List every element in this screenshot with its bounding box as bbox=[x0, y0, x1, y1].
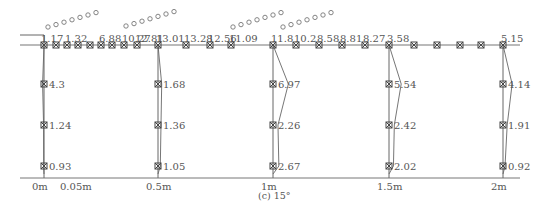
value-label: 11.8 bbox=[271, 33, 293, 44]
bubble-icon bbox=[164, 12, 168, 16]
value-label: 1.36 bbox=[163, 120, 185, 131]
bubble-icon bbox=[86, 13, 90, 17]
x-tick-label: 0.5m bbox=[146, 181, 172, 192]
value-label: 10.2 bbox=[294, 33, 316, 44]
bubble-icon bbox=[54, 22, 58, 26]
value-label: 2.67 bbox=[278, 161, 300, 172]
profile-1.5m: 5.542.422.02 bbox=[386, 45, 416, 178]
x-tick-label: 0m bbox=[32, 181, 48, 192]
bubble-icon bbox=[70, 18, 74, 22]
value-label: 11.09 bbox=[229, 33, 258, 44]
bubble-icon bbox=[124, 24, 128, 28]
bubble-icon bbox=[297, 20, 301, 24]
value-label: 1.91 bbox=[508, 120, 530, 131]
bubble-icon bbox=[231, 25, 235, 29]
value-label: 8.27 bbox=[363, 33, 385, 44]
velocity-profile-diagram: 4.31.240.931.681.361.056.972.262.675.542… bbox=[0, 0, 553, 210]
value-label: 1.05 bbox=[163, 161, 185, 172]
figure-caption: (c) 15° bbox=[258, 190, 291, 201]
bubble-icon bbox=[148, 17, 152, 21]
value-label: 4.3 bbox=[49, 79, 65, 90]
bubble-icon bbox=[156, 14, 160, 18]
value-label: 2.02 bbox=[394, 161, 416, 172]
bubble-icon bbox=[172, 9, 176, 13]
profile-2m: 4.141.910.92 bbox=[500, 45, 530, 178]
value-label: 5.54 bbox=[394, 79, 416, 90]
profile-1m: 6.972.262.67 bbox=[270, 45, 300, 178]
bubble-icon bbox=[62, 20, 66, 24]
bubble-icon bbox=[329, 10, 333, 14]
bubble-icon bbox=[247, 20, 251, 24]
value-label: 3.58 bbox=[387, 33, 409, 44]
bubble-icon bbox=[239, 22, 243, 26]
value-label: 4.14 bbox=[508, 79, 530, 90]
bubble-icon bbox=[94, 10, 98, 14]
value-label: 1.17 bbox=[41, 33, 63, 44]
bubble-icon bbox=[132, 21, 136, 25]
value-label: 0.92 bbox=[508, 161, 530, 172]
value-label: 8.58 bbox=[317, 33, 339, 44]
value-label: 8.81 bbox=[340, 33, 362, 44]
bubble-icon bbox=[313, 15, 317, 19]
bubble-icon bbox=[46, 25, 50, 29]
bubble-icon bbox=[289, 22, 293, 26]
x-tick-label: 0.05m bbox=[60, 181, 92, 192]
value-label: 2.42 bbox=[394, 120, 416, 131]
x-tick-label: 2m bbox=[491, 181, 507, 192]
profile-0.5m: 1.681.361.05 bbox=[155, 45, 185, 178]
value-label: 2.26 bbox=[278, 120, 300, 131]
bubble-icon bbox=[279, 10, 283, 14]
bubble-icon bbox=[263, 15, 267, 19]
value-label: 0.93 bbox=[49, 161, 71, 172]
bubble-icon bbox=[305, 18, 309, 22]
air-bubbles bbox=[46, 9, 333, 29]
bubble-icon bbox=[321, 13, 325, 17]
value-label: 5.15 bbox=[501, 33, 523, 44]
x-tick-label: 1.5m bbox=[377, 181, 403, 192]
bubble-icon bbox=[281, 25, 285, 29]
profile-0m: 4.31.240.93 bbox=[41, 45, 71, 178]
bubble-icon bbox=[255, 18, 259, 22]
value-label: 6.97 bbox=[278, 79, 300, 90]
value-label: 1.24 bbox=[49, 120, 71, 131]
vertical-profiles: 4.31.240.931.681.361.056.972.262.675.542… bbox=[41, 45, 530, 178]
bubble-icon bbox=[140, 19, 144, 23]
bubble-icon bbox=[271, 13, 275, 17]
bubble-icon bbox=[78, 15, 82, 19]
value-label: 1.68 bbox=[163, 79, 185, 90]
surface-markers: 1.171.326.8810.2712.8113.0113.2812.5611.… bbox=[41, 33, 523, 48]
value-label: 13.01 bbox=[156, 33, 185, 44]
